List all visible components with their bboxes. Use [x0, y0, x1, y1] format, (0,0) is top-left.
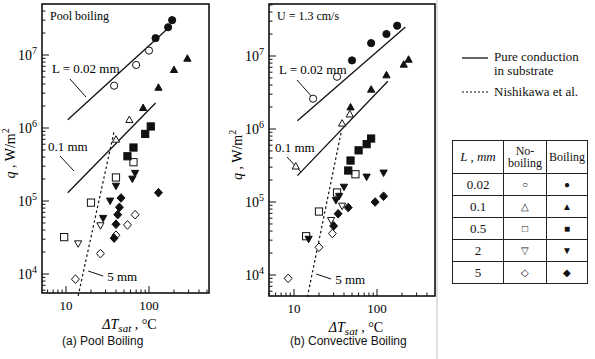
line-label-0.1mm: 0.1 mm [48, 139, 88, 154]
y-tick-label: 105 [245, 192, 264, 210]
plot-a: 10410510610710100ΔTsat , °Cq , W/m2Pool … [0, 4, 209, 334]
table-row: 0.1△▲ [453, 196, 588, 218]
y-tick-label: 104 [18, 264, 37, 282]
line-label-5mm: 5 mm [107, 269, 137, 284]
triangle-marker [368, 86, 375, 92]
y-tick-label: 107 [18, 45, 37, 63]
triangle-down-marker [97, 223, 104, 229]
x-tick-label: 100 [139, 298, 159, 313]
triangle-down-marker [100, 215, 107, 221]
arrow-icon [70, 79, 86, 97]
diamond-marker [315, 243, 323, 252]
table-row: 0.5□■ [453, 218, 588, 240]
triangle-marker [170, 66, 177, 72]
arrow-icon [297, 80, 313, 98]
square-marker [368, 135, 375, 142]
plot-b: 10410510610710100ΔTsat , °Cq , W/m2U = 1… [227, 4, 435, 337]
diamond-marker [123, 221, 131, 230]
diamond-marker [96, 249, 104, 258]
circle-marker [310, 95, 317, 102]
arrow-icon [287, 157, 301, 172]
triangle-marker [140, 104, 147, 110]
diamond-marker [328, 229, 336, 238]
arrow-icon [88, 271, 103, 276]
diamond-marker [114, 210, 122, 219]
triangle-down-marker [340, 184, 347, 190]
table-row: 0.02○● [453, 174, 588, 196]
square-marker [124, 153, 131, 160]
panel-annotation: Pool boiling [50, 9, 109, 23]
circle-marker [152, 35, 159, 42]
y-tick-label: 104 [245, 265, 264, 283]
circle-marker [368, 40, 375, 47]
triangle-down-marker [75, 241, 82, 247]
triangle-marker [126, 116, 133, 122]
square-marker [87, 199, 94, 206]
circle-marker [394, 22, 401, 29]
y-tick-label: 106 [18, 118, 37, 136]
y-tick-label: 106 [245, 119, 264, 137]
triangle-down-marker [380, 170, 387, 176]
triangle-down-marker [112, 183, 119, 189]
triangle-down-marker [107, 198, 114, 204]
square-marker [345, 167, 352, 174]
square-marker [130, 144, 137, 151]
x-tick-label: 10 [60, 298, 73, 313]
circle-marker [333, 73, 340, 80]
triangle-down-marker [363, 174, 370, 180]
header-no-boiling: No-boiling [504, 141, 547, 174]
square-marker [352, 171, 359, 178]
circle-marker [169, 17, 176, 24]
circle-marker [348, 57, 355, 64]
circle-marker [165, 24, 172, 31]
line-label-0.02mm: L = 0.02 mm [52, 61, 120, 76]
diamond-marker [154, 188, 162, 197]
triangle-marker [184, 55, 191, 61]
y-axis-label: q , W/m2 [227, 130, 245, 180]
legend-table: L , mm No-boiling Boiling 0.02○● 0.1△▲ 0… [452, 140, 588, 284]
square-marker [147, 123, 154, 130]
y-tick-label: 107 [245, 46, 264, 64]
diamond-marker [284, 274, 292, 283]
circle-marker [383, 30, 390, 37]
diamond-marker [131, 210, 139, 219]
caption-a: (a) Pool Boiling [62, 334, 143, 348]
line-label-0.1mm: 0.1 mm [275, 140, 315, 155]
arrow-icon [316, 274, 331, 279]
panel-annotation: U = 1.3 cm/s [277, 9, 339, 23]
header-L: L , mm [453, 141, 504, 174]
caption-b: (b) Convective Boiling [290, 334, 407, 348]
header-boiling: Boiling [547, 141, 588, 174]
circle-marker [145, 47, 152, 54]
triangle-marker [346, 110, 353, 116]
triangle-marker [383, 71, 390, 77]
diamond-marker [117, 194, 125, 203]
y-tick-label: 105 [18, 191, 37, 209]
legend-solid-label: Pure conduction in substrate [494, 50, 579, 78]
triangle-marker [339, 120, 346, 126]
line-label-5mm: 5 mm [335, 272, 365, 287]
square-marker [142, 130, 149, 137]
x-tick-label: 10 [288, 301, 301, 316]
triangle-marker [112, 136, 119, 142]
circle-marker [133, 61, 140, 68]
table-row: 2▽▼ [453, 240, 588, 262]
circle-marker [111, 82, 118, 89]
x-tick-label: 100 [367, 301, 387, 316]
table-row: 5◇◆ [453, 262, 588, 284]
triangle-marker [347, 103, 354, 109]
diamond-marker [115, 203, 123, 212]
diamond-marker [380, 192, 388, 201]
square-marker [347, 157, 354, 164]
triangle-marker [405, 56, 412, 62]
square-marker [61, 234, 68, 241]
diamond-marker [371, 198, 379, 207]
square-marker [355, 147, 362, 154]
square-marker [112, 174, 119, 181]
y-axis-label: q , W/m2 [0, 128, 18, 178]
square-marker [315, 208, 322, 215]
x-axis-label: ΔTsat , °C [101, 317, 156, 334]
diamond-marker [112, 220, 120, 229]
legend-dashed-label: Nishikawa et al. [494, 85, 578, 99]
diamond-marker [71, 275, 79, 284]
